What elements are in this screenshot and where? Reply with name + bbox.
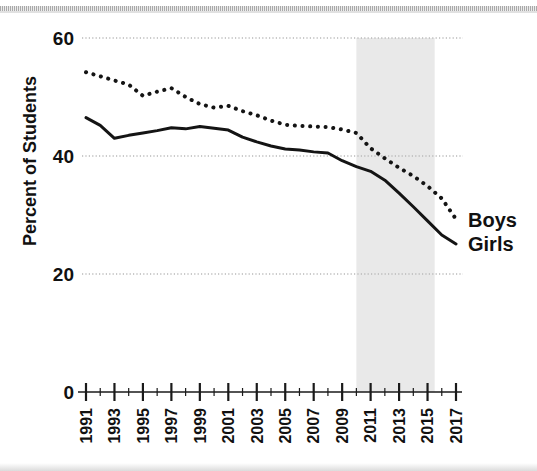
x-tick-label: 1999 bbox=[192, 408, 209, 444]
x-tick-label: 2011 bbox=[362, 408, 379, 443]
y-axis-title-group: Percent of Students bbox=[20, 76, 40, 246]
y-tick-label: 40 bbox=[53, 146, 74, 167]
chart-figure: 6040200 19911993199519971999200120032005… bbox=[0, 0, 537, 471]
line-chart-plot: 6040200 19911993199519971999200120032005… bbox=[0, 0, 537, 471]
x-tick-label: 2007 bbox=[305, 408, 322, 444]
x-tick-label: 1997 bbox=[163, 408, 180, 444]
series-label-boys: Boys bbox=[468, 209, 517, 231]
y-tick-label: 0 bbox=[63, 382, 74, 403]
x-tick-label: 1993 bbox=[106, 408, 123, 444]
x-tick-label-group: 1991199319951997199920012003200520072009… bbox=[78, 408, 465, 444]
x-tick-label: 2017 bbox=[448, 408, 465, 444]
x-tick-label: 2015 bbox=[419, 408, 436, 444]
x-tick-label: 2013 bbox=[391, 408, 408, 444]
x-tick-label: 1991 bbox=[78, 408, 95, 444]
series-label-girls: Girls bbox=[468, 233, 514, 255]
y-tick-label-group: 6040200 bbox=[53, 28, 74, 403]
y-tick-label: 20 bbox=[53, 264, 74, 285]
x-tick-label: 1995 bbox=[135, 408, 152, 444]
scan-artifact-bottom-edge bbox=[0, 463, 537, 471]
x-tick-label: 2001 bbox=[220, 408, 237, 444]
y-tick-label: 60 bbox=[53, 28, 74, 49]
x-tick-label: 2005 bbox=[277, 408, 294, 444]
x-tick-label: 2003 bbox=[249, 408, 266, 444]
y-axis-title: Percent of Students bbox=[20, 76, 40, 246]
x-tick-label: 2009 bbox=[334, 408, 351, 444]
series-label-group: BoysGirls bbox=[468, 209, 517, 255]
